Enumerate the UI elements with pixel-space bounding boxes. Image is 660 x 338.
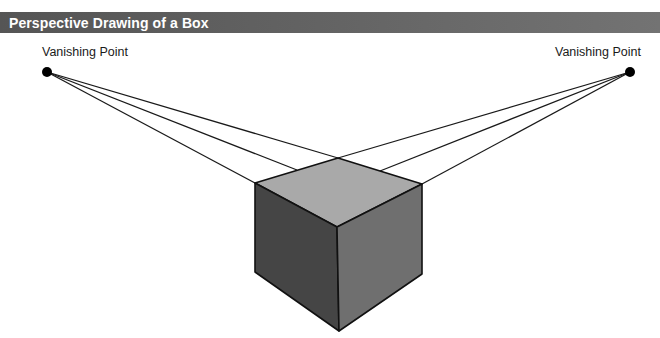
right-line-to-top-face-edge — [380, 72, 630, 171]
right-vanishing-point-dot — [625, 67, 635, 77]
left-perspective-lines — [47, 72, 338, 183]
left-line-to-top-face-edge — [47, 72, 297, 170]
left-vanishing-point-dot — [42, 67, 52, 77]
left-line-to-left-top — [47, 72, 255, 183]
right-line-to-right-top — [422, 72, 630, 184]
left-line-to-back-top — [47, 72, 338, 158]
right-perspective-lines — [338, 72, 630, 184]
right-line-to-back-top — [338, 72, 630, 158]
box — [255, 158, 422, 331]
perspective-diagram — [0, 0, 660, 338]
